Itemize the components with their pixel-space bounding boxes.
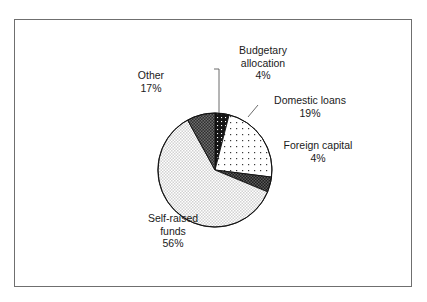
slice-value-foreign-capital: 4% [268, 152, 368, 165]
slice-label-budgetary-allocation: Budgetary allocation 4% [215, 44, 311, 82]
slice-value-self-raised-funds: 56% [123, 237, 223, 250]
slice-label-domestic-loans: Domestic loans 19% [258, 94, 362, 119]
slice-label-self-raised-funds: Self-raised funds 56% [123, 212, 223, 250]
slice-label-other-line1: Other [118, 69, 184, 82]
slice-value-other: 17% [118, 82, 184, 95]
pie-chart-figure: Budgetary allocation 4% Domestic loans 1… [0, 0, 427, 302]
slice-label-self-raised-funds-line1: Self-raised [123, 212, 223, 225]
slice-value-domestic-loans: 19% [258, 107, 362, 120]
slice-label-other: Other 17% [118, 69, 184, 94]
slice-label-foreign-capital: Foreign capital 4% [268, 139, 368, 164]
slice-label-budgetary-allocation-line1: Budgetary [215, 44, 311, 57]
leader-line-domestic-loans [248, 105, 258, 117]
slice-label-domestic-loans-line1: Domestic loans [258, 94, 362, 107]
slice-value-budgetary-allocation: 4% [215, 69, 311, 82]
slice-label-foreign-capital-line1: Foreign capital [268, 139, 368, 152]
slice-label-budgetary-allocation-line2: allocation [215, 57, 311, 70]
slice-label-self-raised-funds-line2: funds [123, 225, 223, 238]
